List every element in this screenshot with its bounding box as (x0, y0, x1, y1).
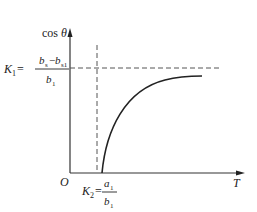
k2-den-sub: 1 (110, 202, 114, 210)
cos-theta-curve (102, 76, 202, 173)
k2-num-sub: 1 (110, 184, 114, 192)
k1-num-a-sub: s (45, 61, 48, 69)
svg-text:cos θ: cos θ (42, 26, 67, 40)
k2-label: K 2 = a 1 b 1 (81, 177, 117, 210)
k1-label: K 1 = b s − b s1 b 1 (3, 54, 69, 88)
k2-sub: 2 (90, 191, 94, 200)
y-axis-label-prefix: cos (42, 26, 58, 40)
k1-den-sub: 1 (52, 80, 56, 88)
k1-sub: 1 (12, 69, 16, 78)
k1-eq: = (17, 62, 24, 76)
x-axis-arrow-icon (236, 171, 245, 176)
cos-theta-vs-temperature-diagram: cos θ K 1 = b s − b s1 b 1 O T K 2 = a 1… (0, 0, 257, 212)
k1-num-b-sub: s1 (61, 61, 68, 69)
y-axis-label-symbol: θ (61, 26, 67, 40)
x-axis-label: T (233, 176, 241, 190)
origin-label: O (60, 175, 69, 189)
y-axis-arrow-icon (68, 28, 73, 37)
k2-eq: = (95, 184, 102, 198)
